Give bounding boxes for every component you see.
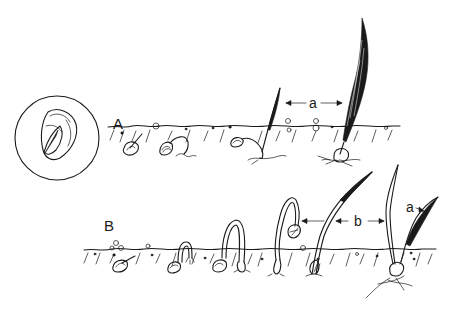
seedling-b3 (213, 220, 250, 272)
soil-surface-b (84, 248, 436, 250)
seedling-a2 (160, 137, 196, 157)
germination-diagram: A (0, 0, 455, 317)
leaf-label-a: a (406, 199, 424, 215)
seedling-b6 (366, 165, 438, 298)
row-b: B (84, 165, 438, 298)
pebbles-b (94, 241, 415, 261)
dimension-a: a (286, 95, 342, 111)
seedling-a1 (123, 134, 142, 155)
seed-inset (15, 96, 99, 180)
soil-surface-a (108, 125, 400, 127)
leaf-a-label: a (406, 199, 414, 215)
seedling-b4 (268, 198, 300, 276)
seedling-a4 (318, 18, 368, 166)
dimension-b: b (302, 213, 384, 229)
seedling-b1 (113, 256, 135, 272)
seedling-b2 (168, 242, 194, 273)
row-b-label: B (104, 217, 114, 234)
seedling-b5 (306, 172, 372, 276)
dimension-a-label: a (309, 95, 317, 111)
row-a: A (108, 18, 400, 166)
soil-hatching-b (84, 253, 432, 266)
dimension-b-label: b (354, 213, 362, 229)
row-a-label: A (113, 115, 123, 132)
